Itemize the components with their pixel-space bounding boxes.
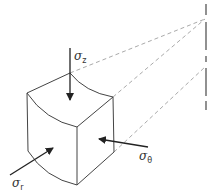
construction-lines xyxy=(70,19,205,152)
stress-element-diagram: σz σθ σr xyxy=(0,0,220,192)
sigma-theta-arrow xyxy=(99,139,148,147)
sigma-r-label: σr xyxy=(12,176,24,192)
sigma-z-label: σz xyxy=(74,49,86,65)
sigma-theta-label: σθ xyxy=(139,149,152,165)
